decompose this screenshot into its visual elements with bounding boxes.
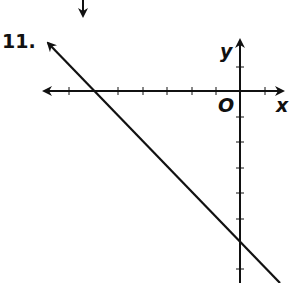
x-axis [44,87,283,95]
x-axis-label: x [275,94,289,116]
origin-label: O [218,94,234,116]
plotted-line [48,43,280,283]
coordinate-graph: y x O [0,0,302,283]
y-axis-label: y [220,40,234,62]
y-axis [236,40,244,283]
